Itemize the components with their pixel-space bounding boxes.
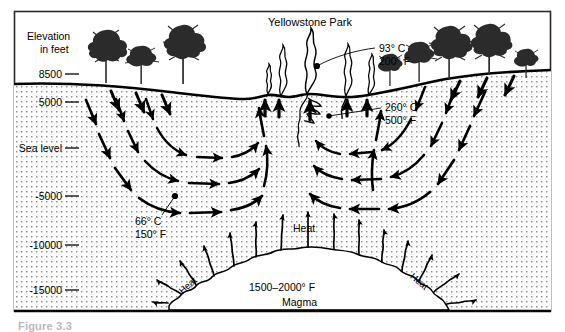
callout-shallow-temp-celsius: 260° C — [385, 101, 417, 113]
figure-caption: Figure 3.3 — [18, 320, 72, 332]
flow-arrow — [189, 183, 219, 184]
callout-dot — [314, 63, 320, 69]
heat-arrow — [256, 222, 257, 257]
axis-tick-label-sea-level: Sea level — [0, 142, 62, 154]
callout-deep-temp-celsius: 66° C — [135, 215, 161, 227]
callout-dot — [172, 193, 178, 199]
axis-title-line1: Elevation — [27, 30, 70, 42]
heat-arrow — [153, 302, 168, 303]
callout-deep-temp-fahrenheit: 150° F — [135, 228, 166, 240]
flow-arrow — [197, 157, 222, 158]
magma-label: Magma — [282, 296, 317, 308]
axis-tick-label-minus-5000: -5000 — [0, 190, 62, 202]
axis-tick-label-minus-10000: -10000 — [0, 239, 62, 251]
axis-title-line2: in feet — [40, 43, 69, 55]
heat-label-center: Heat — [293, 222, 315, 234]
magma-temperature-label: 1500–2000° F — [249, 281, 315, 293]
flow-arrow — [352, 179, 381, 180]
axis-tick-label-minus-15000: -15000 — [0, 284, 62, 296]
flow-arrow — [190, 212, 221, 213]
heat-arrow — [334, 214, 335, 249]
axis-tick-label-5000: 5000 — [0, 96, 62, 108]
heat-arrow — [359, 220, 360, 254]
callout-shallow-temp-fahrenheit: 500° F — [385, 114, 416, 126]
callout-surface-temp-celsius: 93° C — [379, 42, 405, 54]
axis-tick-label-8500: 8500 — [0, 68, 62, 80]
callout-dot — [326, 113, 331, 118]
callout-surface-temp-fahrenheit: 200° F — [379, 55, 410, 67]
figure-title: Yellowstone Park — [268, 16, 352, 29]
